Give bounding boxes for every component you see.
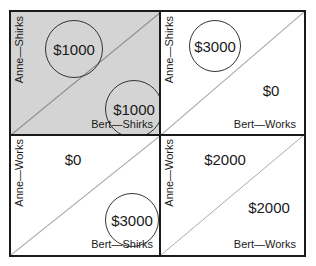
row-label: Anne—Works — [13, 139, 25, 207]
row-label: Anne—Shirks — [13, 16, 25, 83]
anne-payoff-circle: $1000 — [45, 20, 103, 78]
cell-anne-works-bert-shirks: Anne—Works $0 $3000 Bert—Shirks — [11, 135, 161, 255]
bert-payoff: $3000 — [111, 212, 153, 229]
column-label: Bert—Shirks — [91, 118, 153, 130]
cell-anne-shirks-bert-works: Anne—Shirks $3000 $0 Bert—Works — [161, 12, 304, 135]
bert-payoff: $2000 — [239, 197, 299, 217]
row-label: Anne—Works — [163, 139, 175, 207]
payoff-matrix: Anne—Shirks $1000 $1000 Bert—Shirks Anne… — [9, 10, 306, 257]
column-label: Bert—Shirks — [91, 238, 153, 250]
horizontal-divider — [11, 134, 304, 136]
column-label: Bert—Works — [234, 238, 296, 250]
cell-anne-shirks-bert-shirks: Anne—Shirks $1000 $1000 Bert—Shirks — [11, 12, 161, 135]
anne-payoff: $3000 — [194, 38, 236, 55]
row-label: Anne—Shirks — [163, 16, 175, 83]
anne-payoff: $0 — [53, 149, 93, 169]
anne-payoff: $2000 — [195, 149, 255, 169]
anne-payoff-circle: $3000 — [189, 20, 241, 72]
column-label: Bert—Works — [234, 118, 296, 130]
cell-anne-works-bert-works: Anne—Works $2000 $2000 Bert—Works — [161, 135, 304, 255]
bert-payoff: $0 — [251, 80, 291, 100]
bert-payoff: $1000 — [113, 101, 155, 118]
anne-payoff: $1000 — [53, 41, 95, 58]
